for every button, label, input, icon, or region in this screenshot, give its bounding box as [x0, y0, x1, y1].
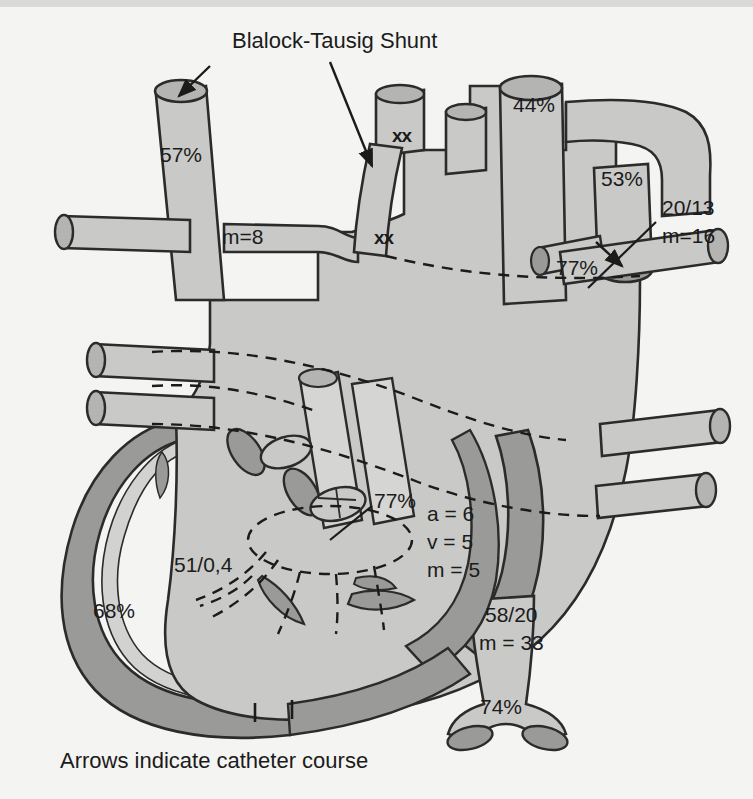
la-a-wave: a = 6 [427, 502, 474, 525]
svc-lumen-opening [155, 80, 207, 102]
left-atrium-sat: 77% [374, 489, 416, 512]
ivc-saturation: 74% [480, 695, 522, 718]
suture-lower: xx [374, 227, 395, 248]
pa-mean-pressure: m=16 [662, 224, 715, 247]
figure-page: Blalock-Tausig Shunt 57%m=844%53%20/13m=… [0, 0, 753, 799]
lv-papillary-1 [156, 452, 169, 498]
pa-saturation: 53% [601, 167, 643, 190]
arrow-to-shunt [330, 62, 372, 166]
la-v-wave: v = 5 [427, 530, 473, 553]
lv-pressure: 51/0,4 [174, 553, 233, 576]
pulmonary-vein-sat: 77% [556, 256, 598, 279]
cardiac-catheterization-diagram: Blalock-Tausig Shunt 57%m=844%53%20/13m=… [0, 0, 753, 799]
heart-body-silhouette [165, 86, 640, 720]
la-mean: m = 5 [427, 558, 480, 581]
figure-title: Blalock-Tausig Shunt [232, 28, 437, 53]
superior-vena-cava [155, 80, 224, 300]
lv-saturation: 68% [93, 599, 135, 622]
desc-aorta-pressure: 58/20 [485, 603, 538, 626]
pa-pressure: 20/13 [662, 196, 715, 219]
svc-mean-pressure: m=8 [222, 225, 263, 248]
suture-upper: xx [392, 125, 413, 146]
left-systemic-veins [55, 215, 214, 430]
desc-aorta-mean: m = 33 [479, 631, 544, 654]
svc-saturation: 57% [160, 143, 202, 166]
figure-caption: Arrows indicate catheter course [60, 748, 368, 773]
aorta-saturation: 44% [513, 93, 555, 116]
